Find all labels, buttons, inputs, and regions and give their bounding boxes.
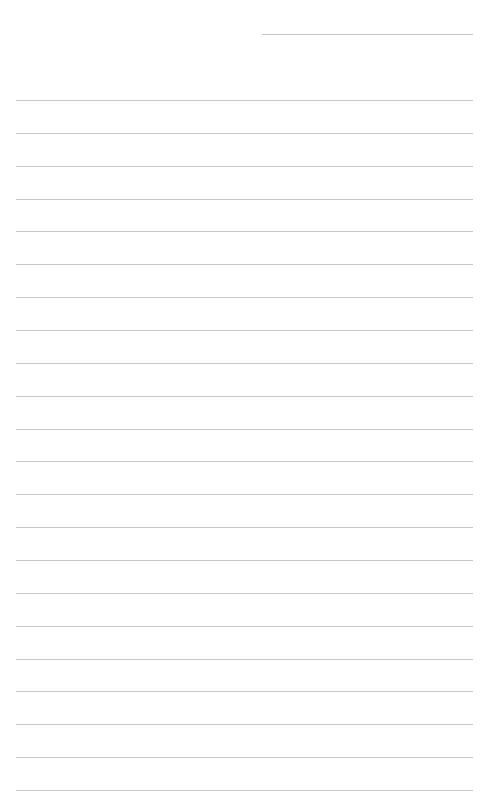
ruled-line xyxy=(16,593,473,594)
ruled-line xyxy=(16,297,473,298)
header-date-line xyxy=(262,34,473,35)
ruled-line xyxy=(16,691,473,692)
ruled-line xyxy=(16,724,473,725)
ruled-line xyxy=(16,100,473,101)
ruled-line xyxy=(16,527,473,528)
ruled-line xyxy=(16,494,473,495)
ruled-line xyxy=(16,133,473,134)
ruled-line xyxy=(16,560,473,561)
ruled-line xyxy=(16,429,473,430)
ruled-line xyxy=(16,790,473,791)
ruled-line xyxy=(16,363,473,364)
ruled-line xyxy=(16,264,473,265)
ruled-line xyxy=(16,461,473,462)
ruled-line xyxy=(16,231,473,232)
ruled-line xyxy=(16,659,473,660)
ruled-line xyxy=(16,626,473,627)
ruled-line xyxy=(16,166,473,167)
ruled-line xyxy=(16,396,473,397)
ruled-line xyxy=(16,757,473,758)
ruled-line xyxy=(16,330,473,331)
ruled-line xyxy=(16,199,473,200)
